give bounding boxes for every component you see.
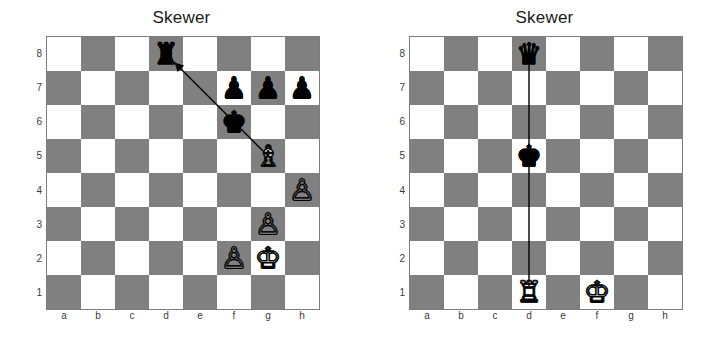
- square-f3[interactable]: [217, 207, 251, 241]
- square-c8[interactable]: [478, 37, 512, 71]
- square-b5[interactable]: [81, 139, 115, 173]
- square-e2[interactable]: [546, 241, 580, 275]
- square-d6[interactable]: [512, 105, 546, 139]
- square-b4[interactable]: [444, 173, 478, 207]
- board-left[interactable]: ♜♟♟♟♚♗♙♙♙♔: [46, 36, 318, 308]
- square-a8[interactable]: [47, 37, 81, 71]
- square-b4[interactable]: [81, 173, 115, 207]
- square-h5[interactable]: [648, 139, 682, 173]
- square-a7[interactable]: [410, 71, 444, 105]
- square-d3[interactable]: [512, 207, 546, 241]
- square-a2[interactable]: [47, 241, 81, 275]
- square-c2[interactable]: [115, 241, 149, 275]
- square-c5[interactable]: [478, 139, 512, 173]
- square-b8[interactable]: [81, 37, 115, 71]
- square-b7[interactable]: [81, 71, 115, 105]
- square-b3[interactable]: [444, 207, 478, 241]
- square-a4[interactable]: [47, 173, 81, 207]
- square-c5[interactable]: [115, 139, 149, 173]
- square-e5[interactable]: [546, 139, 580, 173]
- square-f6[interactable]: [580, 105, 614, 139]
- square-d8[interactable]: [149, 37, 183, 71]
- square-f8[interactable]: [580, 37, 614, 71]
- square-b2[interactable]: [81, 241, 115, 275]
- square-c1[interactable]: [478, 275, 512, 309]
- square-g2[interactable]: [251, 241, 285, 275]
- square-f2[interactable]: [217, 241, 251, 275]
- square-c7[interactable]: [115, 71, 149, 105]
- square-f8[interactable]: [217, 37, 251, 71]
- square-f4[interactable]: [217, 173, 251, 207]
- square-e1[interactable]: [183, 275, 217, 309]
- square-b3[interactable]: [81, 207, 115, 241]
- square-b6[interactable]: [81, 105, 115, 139]
- square-d5[interactable]: [149, 139, 183, 173]
- square-b8[interactable]: [444, 37, 478, 71]
- square-e6[interactable]: [546, 105, 580, 139]
- square-d8[interactable]: [512, 37, 546, 71]
- square-g6[interactable]: [251, 105, 285, 139]
- square-e3[interactable]: [546, 207, 580, 241]
- square-a5[interactable]: [47, 139, 81, 173]
- square-a6[interactable]: [410, 105, 444, 139]
- square-g1[interactable]: [614, 275, 648, 309]
- square-g2[interactable]: [614, 241, 648, 275]
- square-c2[interactable]: [478, 241, 512, 275]
- square-e3[interactable]: [183, 207, 217, 241]
- square-c6[interactable]: [478, 105, 512, 139]
- square-g7[interactable]: [614, 71, 648, 105]
- square-h4[interactable]: [648, 173, 682, 207]
- square-d2[interactable]: [149, 241, 183, 275]
- square-b1[interactable]: [444, 275, 478, 309]
- square-c7[interactable]: [478, 71, 512, 105]
- square-d7[interactable]: [512, 71, 546, 105]
- square-h1[interactable]: [285, 275, 319, 309]
- square-b7[interactable]: [444, 71, 478, 105]
- square-d7[interactable]: [149, 71, 183, 105]
- square-c8[interactable]: [115, 37, 149, 71]
- square-c1[interactable]: [115, 275, 149, 309]
- square-h7[interactable]: [285, 71, 319, 105]
- square-a3[interactable]: [47, 207, 81, 241]
- square-e6[interactable]: [183, 105, 217, 139]
- square-h2[interactable]: [285, 241, 319, 275]
- square-h8[interactable]: [285, 37, 319, 71]
- square-d4[interactable]: [512, 173, 546, 207]
- square-g7[interactable]: [251, 71, 285, 105]
- square-c6[interactable]: [115, 105, 149, 139]
- board-right[interactable]: ♛♚♖♔: [409, 36, 681, 308]
- square-f5[interactable]: [217, 139, 251, 173]
- square-e8[interactable]: [546, 37, 580, 71]
- square-h4[interactable]: [285, 173, 319, 207]
- square-f6[interactable]: [217, 105, 251, 139]
- square-e4[interactable]: [546, 173, 580, 207]
- square-g5[interactable]: [251, 139, 285, 173]
- square-g3[interactable]: [251, 207, 285, 241]
- square-h1[interactable]: [648, 275, 682, 309]
- square-f7[interactable]: [580, 71, 614, 105]
- square-h5[interactable]: [285, 139, 319, 173]
- square-f4[interactable]: [580, 173, 614, 207]
- square-h6[interactable]: [648, 105, 682, 139]
- square-d1[interactable]: [512, 275, 546, 309]
- square-h3[interactable]: [648, 207, 682, 241]
- square-e4[interactable]: [183, 173, 217, 207]
- square-c3[interactable]: [478, 207, 512, 241]
- square-h3[interactable]: [285, 207, 319, 241]
- square-a4[interactable]: [410, 173, 444, 207]
- square-b1[interactable]: [81, 275, 115, 309]
- square-a5[interactable]: [410, 139, 444, 173]
- square-f5[interactable]: [580, 139, 614, 173]
- square-d5[interactable]: [512, 139, 546, 173]
- square-d6[interactable]: [149, 105, 183, 139]
- square-g6[interactable]: [614, 105, 648, 139]
- square-g8[interactable]: [614, 37, 648, 71]
- square-c4[interactable]: [115, 173, 149, 207]
- square-b6[interactable]: [444, 105, 478, 139]
- square-a8[interactable]: [410, 37, 444, 71]
- square-f1[interactable]: [217, 275, 251, 309]
- square-g1[interactable]: [251, 275, 285, 309]
- square-d2[interactable]: [512, 241, 546, 275]
- square-c3[interactable]: [115, 207, 149, 241]
- square-f3[interactable]: [580, 207, 614, 241]
